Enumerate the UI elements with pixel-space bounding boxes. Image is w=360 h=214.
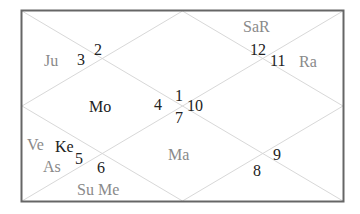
chart-lines — [0, 0, 360, 214]
planet-label-house-12: SaR — [243, 19, 270, 35]
house-number-7: 7 — [175, 110, 183, 126]
house-number-8: 8 — [253, 163, 261, 179]
house-number-6: 6 — [97, 160, 105, 176]
planet-label-house-3: Ju — [44, 53, 58, 69]
house-number-2: 2 — [94, 42, 102, 58]
house-number-1: 1 — [175, 88, 183, 104]
house-number-11: 11 — [270, 53, 285, 69]
planet-label-ve: Ve — [27, 137, 44, 153]
house-number-4: 4 — [154, 97, 162, 113]
planet-label-house-6: Su Me — [77, 182, 119, 198]
house-number-9: 9 — [273, 147, 281, 163]
house-number-3: 3 — [77, 52, 85, 68]
planet-label-house-7: Ma — [168, 147, 189, 163]
house-number-10: 10 — [187, 98, 203, 114]
planet-label-house-4: Mo — [89, 99, 111, 115]
house-number-12: 12 — [250, 42, 266, 58]
planet-label-house-5: Ke — [55, 139, 74, 155]
house-number-5: 5 — [75, 151, 83, 167]
planet-label-as: As — [43, 159, 61, 175]
planet-label-house-11: Ra — [299, 54, 317, 70]
